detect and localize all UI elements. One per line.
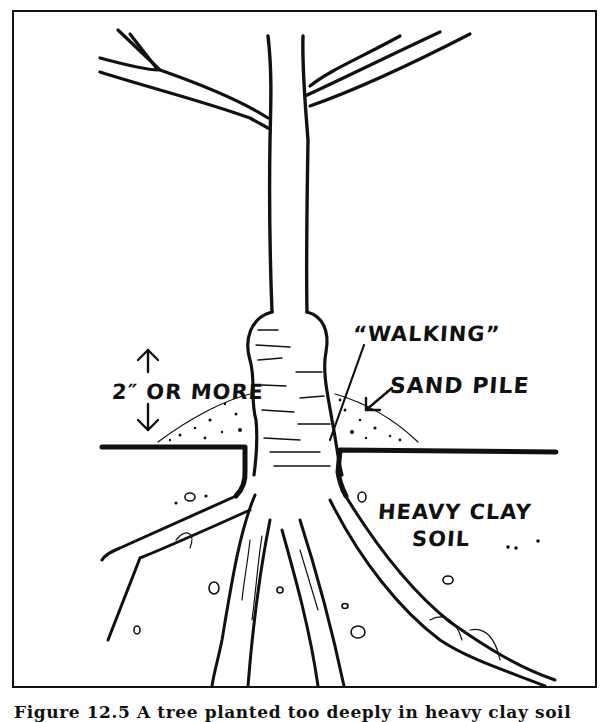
tree-trunk: [268, 36, 308, 312]
sand-pile-label: SAND PILE: [389, 373, 530, 398]
sand-stipple: [169, 399, 540, 550]
tree-branches: [100, 30, 470, 128]
soil-label-line2: SOIL: [411, 527, 471, 551]
depth-label: 2″ OR MORE: [111, 380, 265, 404]
walking-label: “WALKING”: [352, 322, 501, 346]
root-grain: [176, 533, 500, 660]
figure-caption: Figure 12.5 A tree planted too deeply in…: [14, 702, 571, 722]
soil-label-line1: HEAVY CLAY: [377, 500, 532, 524]
sand-arrow: [366, 388, 392, 410]
walking-pointer: [330, 345, 364, 440]
bark-hatching: [256, 330, 330, 466]
ground-line: [102, 447, 556, 496]
